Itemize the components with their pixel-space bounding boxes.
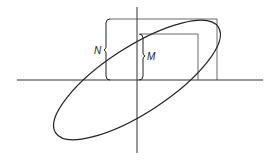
outer-bounding-box xyxy=(110,19,217,80)
m-brace xyxy=(139,34,145,80)
m-label: M xyxy=(147,51,156,62)
n-label: N xyxy=(94,45,102,56)
n-brace xyxy=(104,19,110,80)
lissajous-diagram: N M xyxy=(0,0,276,160)
